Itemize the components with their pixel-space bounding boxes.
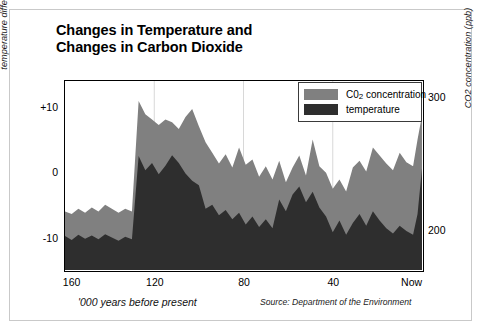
y-axis-right-tick: 300 xyxy=(428,92,462,103)
legend-swatch-temperature xyxy=(304,104,338,115)
legend-label-co2-tail: concentration xyxy=(363,89,426,100)
legend-item-co2: C02 concentration xyxy=(304,87,416,102)
y-axis-right-tick: 200 xyxy=(428,225,462,236)
x-axis-label: '000 years before present xyxy=(78,296,197,308)
y-axis-left-tick: 0 xyxy=(26,167,58,178)
legend-item-temperature: temperature xyxy=(304,102,416,117)
chart-title: Changes in Temperature and Changes in Ca… xyxy=(56,22,396,56)
y-axis-left-tick: -10 xyxy=(26,233,58,244)
legend-label-co2: C02 concentration xyxy=(346,89,426,101)
x-axis-tick: 40 xyxy=(303,276,363,288)
y-axis-right-label: CO2 concentration (ppb) xyxy=(463,0,473,148)
y-axis-left-label: temperature difference from now (degrees… xyxy=(0,0,9,72)
x-axis-tick: 120 xyxy=(125,276,185,288)
source-note: Source: Department of the Environment xyxy=(260,297,411,307)
chart-figure: Changes in Temperature and Changes in Ca… xyxy=(0,0,482,331)
chart-legend: C02 concentration temperature xyxy=(298,82,422,122)
legend-label-co2-main: C0 xyxy=(346,89,359,100)
legend-swatch-co2 xyxy=(304,89,338,100)
x-axis-tick: 160 xyxy=(42,276,102,288)
y-axis-left-tick: +10 xyxy=(26,102,58,113)
x-axis-tick: Now xyxy=(382,276,442,288)
x-axis-tick: 80 xyxy=(214,276,274,288)
legend-label-temperature: temperature xyxy=(346,104,400,115)
